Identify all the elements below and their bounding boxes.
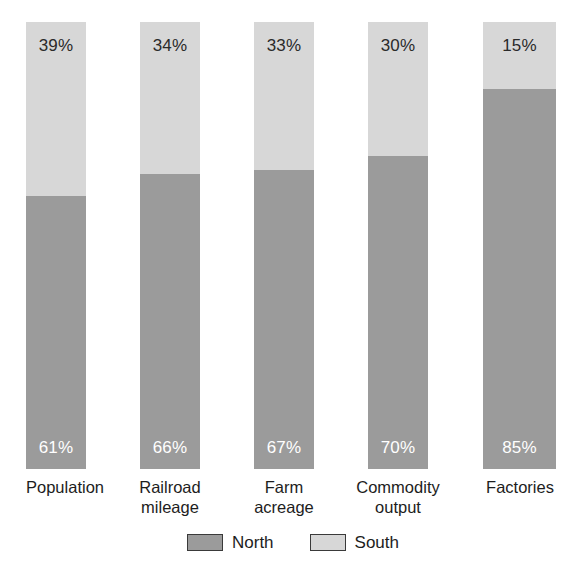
- bar-value-label-north: 66%: [140, 439, 200, 456]
- bar-stack: 34% 66%: [140, 22, 200, 469]
- bar-value-label-north: 70%: [368, 439, 428, 456]
- legend-swatch-north-icon: [187, 534, 223, 551]
- category-label-railroad-mileage: Railroad mileage: [134, 477, 206, 517]
- legend-label-south: South: [355, 534, 399, 551]
- category-label-farm-acreage: Farm acreage: [248, 477, 320, 517]
- bar-group-population: 39% 61%: [26, 22, 86, 469]
- legend-item-south: South: [310, 534, 399, 551]
- legend-swatch-south-icon: [310, 534, 346, 551]
- legend-label-north: North: [232, 534, 274, 551]
- bar-value-label-north: 67%: [254, 439, 314, 456]
- bar-stack: 39% 61%: [26, 22, 86, 469]
- bar-value-label-south: 39%: [26, 37, 86, 54]
- bar-stack: 15% 85%: [483, 22, 556, 469]
- bar-value-label-north: 61%: [26, 439, 86, 456]
- bar-value-label-south: 15%: [483, 37, 556, 54]
- category-label-factories: Factories: [478, 477, 562, 497]
- bar-segment-south: 15%: [483, 22, 556, 89]
- category-label-population: Population: [26, 477, 86, 497]
- bar-value-label-south: 30%: [368, 37, 428, 54]
- stacked-bar-chart: 39% 61% Population 34% 66% Railroad mile…: [0, 0, 586, 577]
- bar-segment-south: 34%: [140, 22, 200, 174]
- bar-segment-south: 30%: [368, 22, 428, 156]
- bar-stack: 30% 70%: [368, 22, 428, 469]
- bar-stack: 33% 67%: [254, 22, 314, 469]
- bar-group-factories: 15% 85%: [483, 22, 556, 469]
- bar-segment-north: 67%: [254, 170, 314, 469]
- plot-area: 39% 61% Population 34% 66% Railroad mile…: [0, 0, 586, 470]
- bar-segment-north: 70%: [368, 156, 428, 469]
- bar-segment-north: 66%: [140, 174, 200, 469]
- bar-value-label-south: 33%: [254, 37, 314, 54]
- bar-group-farm-acreage: 33% 67%: [254, 22, 314, 469]
- bar-value-label-south: 34%: [140, 37, 200, 54]
- bar-segment-south: 33%: [254, 22, 314, 170]
- chart-legend: North South: [0, 534, 586, 551]
- bar-group-railroad-mileage: 34% 66%: [140, 22, 200, 469]
- bar-value-label-north: 85%: [483, 439, 556, 456]
- bar-segment-north: 85%: [483, 89, 556, 469]
- category-label-commodity-output: Commodity output: [353, 477, 443, 517]
- bar-segment-south: 39%: [26, 22, 86, 196]
- legend-item-north: North: [187, 534, 274, 551]
- bar-segment-north: 61%: [26, 196, 86, 469]
- bar-group-commodity-output: 30% 70%: [368, 22, 428, 469]
